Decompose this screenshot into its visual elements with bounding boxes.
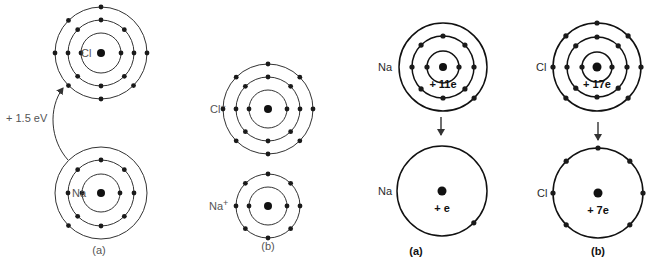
electron-dot: [462, 42, 467, 47]
panel-caption: (a): [92, 244, 105, 256]
electron-dot: [626, 33, 631, 38]
atom-na-neutral-a: Na: [55, 147, 147, 239]
electron-dot: [247, 107, 252, 112]
electron-dot: [418, 86, 423, 91]
electron-dot: [53, 51, 58, 56]
electron-dot: [409, 64, 414, 69]
right-panel-effective-charge: Na+ 11eNa+ eCl+ 17eCl+ 7e (a)(b): [378, 20, 646, 257]
energy-label: + 1.5 eV: [6, 112, 48, 124]
electron-dot: [456, 64, 461, 69]
nuclear-charge-label: + 11e: [429, 78, 456, 90]
electron-dot: [609, 64, 614, 69]
electron-dot: [66, 51, 71, 56]
electron-dot: [132, 191, 137, 196]
electron-dot: [132, 51, 137, 56]
figure-canvas: + 1.5 eV ClNaCl−Na+ (a)(b) Na+ 11eNa+ eC…: [0, 0, 648, 265]
electron-dot: [75, 167, 80, 172]
electron-dot: [616, 86, 621, 91]
nucleus: [439, 63, 447, 71]
electron-dot: [573, 86, 578, 91]
electron-dot: [99, 97, 104, 102]
nuclear-charge-label: + 17e: [583, 78, 611, 90]
electron-dot: [99, 84, 104, 89]
electron-dot: [594, 94, 599, 99]
nucleus: [97, 49, 105, 57]
electron-dot: [266, 75, 271, 80]
electron-dot: [131, 83, 136, 88]
electron-dot: [234, 107, 239, 112]
electron-dot: [440, 33, 445, 38]
electron-dot: [66, 18, 71, 23]
electron-dot: [462, 86, 467, 91]
panel-caption: (b): [591, 245, 605, 257]
electron-dot: [627, 222, 632, 227]
atom-cl-effective-b: Cl+ 7e: [537, 145, 646, 238]
electron-dot: [564, 222, 569, 227]
electron-dot: [145, 51, 150, 56]
ion-charge-superscript: +: [223, 198, 228, 208]
electron-dot: [563, 33, 568, 38]
panel-caption: (b): [261, 240, 274, 252]
electron-dot: [122, 214, 127, 219]
atom-cl-ion-b: Cl−: [210, 62, 315, 157]
electron-dot: [288, 181, 293, 186]
electron-dot: [311, 107, 316, 112]
electron-dot: [298, 107, 303, 112]
nuclear-charge-label: + 7e: [587, 204, 609, 216]
electron-dot: [471, 64, 476, 69]
electron-dot: [640, 190, 645, 195]
electron-dot: [285, 204, 290, 209]
electron-dot: [266, 172, 271, 177]
atom-label: Na: [72, 187, 87, 199]
nucleus: [438, 187, 447, 196]
electron-dot: [418, 42, 423, 47]
nuclear-charge-label: + e: [434, 202, 450, 214]
electron-dot: [99, 5, 104, 10]
electron-dot: [550, 190, 555, 195]
atom-na-effective-a: Na+ e: [378, 146, 487, 236]
electron-dot: [424, 64, 429, 69]
electron-dot: [75, 74, 80, 79]
electron-dot: [627, 159, 632, 164]
electron-dot: [573, 43, 578, 48]
electron-dot: [66, 223, 71, 228]
electron-dot: [122, 27, 127, 32]
atom-label: Na: [378, 185, 393, 197]
atom-na-core-a: Na+ 11e: [378, 23, 487, 111]
electron-dot: [234, 75, 239, 80]
nucleus: [264, 202, 272, 210]
atom-label: Cl: [537, 187, 547, 199]
electron-dot: [122, 167, 127, 172]
atom-label: Cl: [81, 47, 91, 59]
electron-dot: [564, 64, 569, 69]
electron-dot: [472, 96, 477, 101]
electron-dot: [66, 191, 71, 196]
electron-dot: [288, 84, 293, 89]
electron-dot: [118, 191, 123, 196]
atom-cl-core-b: Cl+ 17e: [536, 20, 644, 111]
electron-dot: [243, 181, 248, 186]
electron-dot: [99, 224, 104, 229]
atom-label: Cl: [536, 61, 546, 73]
electron-dot: [243, 129, 248, 134]
electron-dot: [563, 96, 568, 101]
electron-dot: [75, 214, 80, 219]
electron-dot: [595, 145, 600, 150]
nucleus: [97, 189, 105, 197]
electron-dot: [122, 74, 127, 79]
electron-dot: [288, 129, 293, 134]
electron-dot: [75, 27, 80, 32]
nucleus: [594, 189, 603, 198]
electron-transfer-arrow: [53, 88, 68, 160]
left-panel-ionization: + 1.5 eV ClNaCl−Na+ (a)(b): [6, 5, 315, 256]
ion-charge-superscript: −: [220, 101, 225, 111]
electron-dot: [626, 96, 631, 101]
electron-dot: [99, 18, 104, 23]
electron-dot: [564, 159, 569, 164]
electron-dot: [624, 64, 629, 69]
electron-dot: [297, 138, 302, 143]
electron-dot: [266, 152, 271, 157]
electron-dot: [66, 83, 71, 88]
atom-label: Na+: [209, 198, 228, 212]
electron-dot: [99, 158, 104, 163]
